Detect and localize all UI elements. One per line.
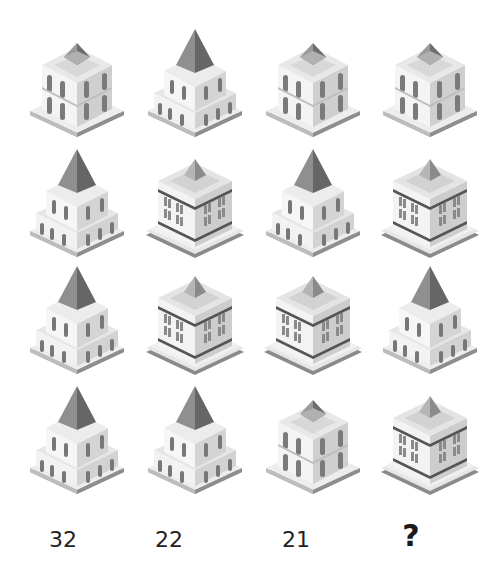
pyramid-tower-building-icon (22, 262, 132, 377)
label-col-1: 32 (23, 520, 103, 560)
arch-2story-building-icon (375, 25, 485, 140)
pyramid-tower-building-icon (22, 145, 132, 260)
pyramid-tower-building-icon (258, 145, 368, 260)
pyramid-tower-building-icon (375, 262, 485, 377)
office-block-building-icon (375, 145, 485, 260)
pyramid-tower-building-icon (140, 382, 250, 497)
label-col-2: 22 (129, 520, 209, 560)
arch-2story-building-icon (258, 382, 368, 497)
column-labels: 32 22 21 ? (0, 520, 485, 570)
office-block-building-icon (140, 262, 250, 377)
arch-2story-building-icon (22, 25, 132, 140)
pyramid-tower-building-icon (22, 382, 132, 497)
office-block-building-icon (140, 145, 250, 260)
pyramid-tower-building-icon (140, 25, 250, 140)
office-block-building-icon (258, 262, 368, 377)
office-block-building-icon (375, 382, 485, 497)
answer-question-mark: ? (371, 516, 451, 556)
arch-2story-building-icon (258, 25, 368, 140)
building-grid (0, 0, 485, 520)
label-col-3: 21 (256, 520, 336, 560)
